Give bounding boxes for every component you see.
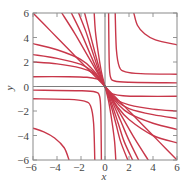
solution-curve (33, 77, 105, 87)
x-tick-label: 2 (126, 161, 132, 173)
x-tick-label: −2 (73, 161, 85, 173)
y-tick-label: −2 (17, 105, 29, 117)
solution-curve (105, 87, 177, 112)
solution-curve (134, 13, 177, 45)
y-tick-label: 2 (24, 56, 30, 68)
solution-curve (33, 62, 105, 87)
x-tick-label: −4 (49, 161, 61, 173)
y-axis-label: y (3, 85, 15, 91)
x-tick-label: 4 (150, 161, 156, 173)
solution-curve (109, 13, 177, 83)
slope-field-chart: −6−4−20246 −6−4−20246 x y (0, 0, 190, 189)
solution-curve (33, 90, 101, 160)
y-tick-label: 0 (24, 81, 30, 93)
y-tick-label: −6 (17, 154, 29, 166)
y-tick-labels: −6−4−20246 (17, 7, 29, 166)
x-tick-label: 6 (174, 161, 180, 173)
solution-curve (105, 87, 177, 97)
solution-curve (33, 128, 69, 160)
y-tick-label: −4 (17, 130, 29, 142)
y-tick-label: 6 (24, 7, 30, 19)
x-axis-label: x (101, 170, 107, 182)
y-tick-label: 4 (24, 32, 30, 44)
solution-curve (33, 99, 95, 160)
